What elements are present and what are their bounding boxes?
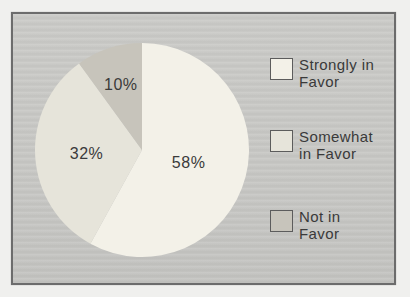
pie-slice-value-label: 58% — [172, 154, 206, 171]
pie-slice-value-label: 10% — [104, 76, 138, 93]
legend-label-line: Somewhat — [299, 128, 373, 145]
legend-item-not-in-favor: Not in Favor — [270, 208, 341, 242]
pie-chart: 58%32%10% — [32, 40, 252, 260]
legend-label-strongly-in-favor: Strongly in Favor — [293, 56, 374, 90]
legend-label-somewhat-in-favor: Somewhat in Favor — [293, 128, 373, 162]
legend-label-line: Strongly in — [299, 56, 374, 73]
legend-swatch-not-in-favor — [270, 210, 293, 232]
page: 58%32%10% Strongly in Favor Somewhat in … — [0, 0, 410, 297]
legend-label-line: Favor — [299, 225, 339, 242]
legend-swatch-strongly-in-favor — [270, 58, 293, 80]
chart-frame: 58%32%10% Strongly in Favor Somewhat in … — [11, 12, 396, 285]
legend-label-not-in-favor: Not in Favor — [293, 208, 341, 242]
legend-label-line: in Favor — [299, 145, 356, 162]
legend-label-line: Favor — [299, 73, 339, 90]
legend-item-somewhat-in-favor: Somewhat in Favor — [270, 128, 373, 162]
legend-label-line: Not in — [299, 208, 341, 225]
pie-slice-value-label: 32% — [70, 145, 104, 162]
legend-swatch-somewhat-in-favor — [270, 130, 293, 152]
legend-item-strongly-in-favor: Strongly in Favor — [270, 56, 374, 90]
